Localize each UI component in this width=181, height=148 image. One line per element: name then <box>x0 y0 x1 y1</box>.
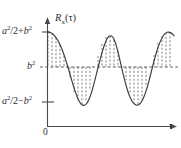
autocorrelation-curve <box>48 32 174 105</box>
plot-canvas <box>0 0 181 148</box>
y-axis-arrowhead <box>45 17 50 24</box>
y-axis-label-argument: (τ) <box>65 12 76 23</box>
autocorrelation-figure: a2/2+b2 b2 a2/2−b2 Rx(τ) τ 0 <box>0 0 181 148</box>
origin-label: 0 <box>43 128 48 138</box>
y-axis-label: Rx(τ) <box>55 13 76 24</box>
y-tick-label-bottom: a2/2−b2 <box>2 96 32 106</box>
x-axis-label: τ <box>169 121 173 131</box>
y-tick-label-baseline: b2 <box>27 61 35 71</box>
y-tick-label-top: a2/2+b2 <box>2 26 32 36</box>
